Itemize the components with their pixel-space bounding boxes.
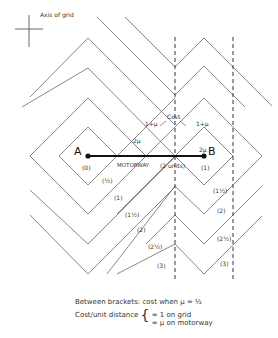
one-plus-mu-left-label: 1+μ [145, 120, 158, 127]
dashed-boundary-lines [175, 37, 233, 282]
motorway-label: MOTORWAY [117, 162, 149, 169]
contour-value-a: (0) [82, 164, 91, 171]
contour-value-right-3: (2½) [217, 235, 231, 242]
contour-value-left-3: (1½) [125, 211, 139, 218]
contour-value-left-6: (3) [157, 262, 166, 269]
contour-value-right-2: (2) [217, 207, 226, 214]
grid-axis-icon [15, 15, 43, 47]
point-b-label: B [208, 148, 216, 155]
point-b-marker [201, 153, 206, 158]
two-mu-right-label: 2μ [199, 146, 207, 153]
motorway-length-label: (2 units) [160, 162, 185, 169]
contour-value-left-5: (2½) [148, 243, 162, 250]
caption-cost-prefix: Cost/unit distance [75, 311, 138, 319]
point-a-marker [85, 153, 90, 158]
contour-value-b: (1) [201, 164, 210, 171]
caption-cost-grid: = 1 on grid [152, 311, 191, 319]
caption-cost-values: = 1 on grid = μ on motorway [152, 311, 213, 327]
cost-contour-diagram [0, 0, 278, 338]
cost-contours [22, 17, 272, 274]
one-plus-mu-right-label: 1+μ [196, 120, 209, 127]
contour-value-right-1: (1½) [213, 187, 227, 194]
two-mu-left-label: 2μ [133, 137, 141, 144]
brace-icon: { [141, 307, 150, 323]
caption-cost-per-unit: Cost/unit distance { = 1 on grid = μ on … [75, 311, 213, 327]
contour-value-left-4: (2) [137, 226, 146, 233]
cost-label: Cost [167, 113, 180, 120]
contour-value-left-2: (1) [114, 194, 123, 201]
caption-brackets: Between brackets: cost when μ = ½ [75, 298, 202, 307]
contour-value-right-4: (3) [220, 260, 229, 267]
point-a-label: A [74, 148, 82, 155]
contour-value-left-1: (½) [102, 177, 113, 184]
axis-of-grid-label: Axis of grid [40, 11, 66, 18]
caption-cost-motorway: = μ on motorway [152, 319, 213, 327]
